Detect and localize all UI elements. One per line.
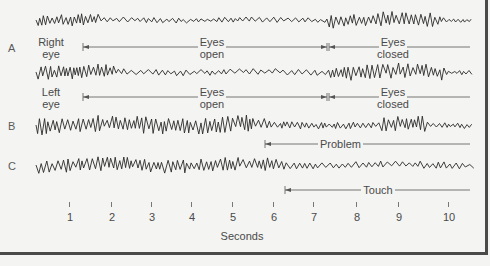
touch-label: Touch (358, 184, 398, 196)
x-tick-mark (273, 202, 274, 207)
arrowhead-icon (285, 188, 291, 192)
eyes-open-text: Eyes (198, 36, 226, 48)
row-label-b: B (8, 120, 15, 132)
problem-label: Problem (318, 138, 362, 150)
eyes-open-text2: open (190, 48, 234, 60)
eyes-open-label-right: Eyes open (190, 36, 234, 60)
x-tick-label: 1 (67, 211, 73, 223)
x-tick-mark (448, 202, 449, 207)
x-tick-mark (356, 202, 357, 207)
x-tick-mark (111, 202, 112, 207)
x-tick-label: 8 (354, 211, 360, 223)
c-trace (36, 157, 474, 174)
x-tick-mark (398, 202, 399, 207)
x-tick-label: 3 (149, 211, 155, 223)
left-eye-label-line2: eye (34, 98, 68, 110)
x-tick-mark (191, 202, 192, 207)
x-tick-label: 9 (396, 211, 402, 223)
x-tick-label: 4 (189, 211, 195, 223)
arrowhead-icon (321, 95, 327, 99)
arrowhead-icon (83, 45, 89, 49)
right-eye-label: Right eye (34, 36, 68, 60)
x-tick-label: 5 (230, 211, 236, 223)
right-eye-label-line2: eye (34, 48, 68, 60)
eyes-closed-text2: closed (368, 98, 418, 110)
eyes-open-text: Eyes (198, 86, 226, 98)
x-tick-mark (313, 202, 314, 207)
b-trace (36, 115, 472, 135)
eyes-closed-text: Eyes (379, 36, 407, 48)
x-tick-label: 2 (109, 211, 115, 223)
eyes-open-text2: open (190, 98, 234, 110)
arrowhead-icon (329, 45, 335, 49)
row-label-c: C (8, 160, 16, 172)
right-eye-trace (36, 12, 471, 29)
x-tick-label: 6 (271, 211, 277, 223)
arrowhead-icon (83, 95, 89, 99)
left-eye-trace (36, 63, 472, 80)
arrowhead-icon (321, 45, 327, 49)
eyes-closed-label-right: Eyes closed (368, 36, 418, 60)
eyes-open-label-left: Eyes open (190, 86, 234, 110)
eyes-closed-label-left: Eyes closed (368, 86, 418, 110)
left-eye-label: Left eye (34, 86, 68, 110)
x-tick-label: 7 (311, 211, 317, 223)
x-tick-label: 10 (443, 211, 455, 223)
right-eye-label-line1: Right (34, 36, 68, 48)
eyes-closed-text2: closed (368, 48, 418, 60)
problem-text: Problem (318, 138, 363, 150)
arrowhead-icon (265, 142, 271, 146)
eyes-closed-text: Eyes (379, 86, 407, 98)
touch-text: Touch (361, 184, 394, 196)
x-tick-mark (151, 202, 152, 207)
arrowhead-icon (329, 95, 335, 99)
x-axis-title: Seconds (221, 230, 264, 242)
row-label-a: A (8, 42, 15, 54)
left-eye-label-line1: Left (34, 86, 68, 98)
x-tick-mark (232, 202, 233, 207)
x-tick-mark (69, 202, 70, 207)
